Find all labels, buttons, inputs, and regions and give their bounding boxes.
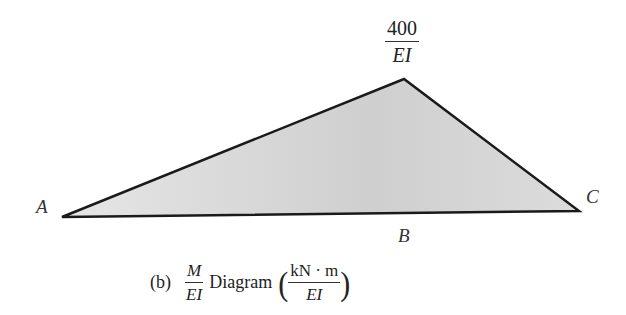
point-label-c: C [586, 186, 599, 208]
caption-unit-denominator: EI [306, 283, 322, 303]
caption-open-paren: ( [278, 265, 288, 300]
caption-units: kN · m EI [288, 262, 340, 303]
peak-value-numerator: 400 [385, 18, 419, 42]
peak-value-denominator: EI [393, 42, 412, 65]
caption-ratio-denominator: EI [186, 283, 202, 303]
triangle-area [62, 79, 579, 217]
caption-ratio: M EI [185, 262, 203, 303]
caption-unit-numerator: kN · m [288, 262, 340, 283]
caption-ratio-numerator: M [185, 262, 203, 283]
peak-value: 400 EI [385, 18, 419, 65]
caption-prefix: (b) [150, 272, 171, 293]
point-label-b: B [398, 225, 410, 247]
caption-text: Diagram [209, 272, 272, 293]
point-label-a: A [36, 196, 48, 218]
caption-close-paren: ) [340, 265, 350, 300]
diagram-caption: (b) M EI Diagram ( kN · m EI ) [150, 262, 350, 303]
